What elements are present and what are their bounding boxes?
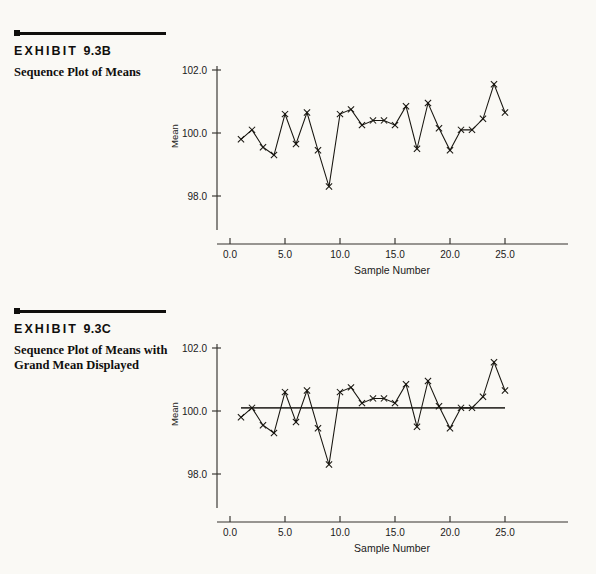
textbook-page: EXHIBIT 9.3B Sequence Plot of Means 102.… (0, 0, 596, 574)
x-ticklabel-0: 0.0 (223, 249, 237, 260)
y-axis-group-b: 102.0 100.0 98.0 Mean (169, 65, 221, 231)
exhibit-title-number: 9.3C (84, 322, 112, 336)
x-axis-group-c: 0.0 5.0 10.0 15.0 20.0 25.0 Sample Numbe… (217, 516, 568, 554)
data-point-marker (436, 125, 442, 131)
data-point-marker (315, 425, 321, 431)
series-markers (238, 81, 508, 190)
data-point-marker (392, 122, 398, 128)
data-point-marker (491, 81, 497, 87)
x-ticklabel-15: 15.0 (385, 249, 405, 260)
x-ticklabel-10: 10.0 (330, 527, 350, 538)
series-polyline (241, 362, 505, 464)
data-point-marker (403, 381, 409, 387)
y-axis-group-c: 102.0 100.0 98.0 Mean (169, 343, 221, 509)
x-axis-group-b: 0.0 5.0 10.0 15.0 20.0 25.0 Sample Numbe… (217, 238, 568, 276)
x-ticklabel-25: 25.0 (495, 527, 515, 538)
data-point-marker (293, 141, 299, 147)
data-point-marker (491, 359, 497, 365)
x-ticklabel-5: 5.0 (278, 527, 292, 538)
y-ticklabel-100: 100.0 (182, 406, 207, 417)
exhibit-title-number: 9.3B (84, 44, 112, 58)
chart-canvas-b: 102.0 100.0 98.0 Mean 0.0 5.0 10.0 15.0 … (160, 52, 580, 282)
data-point-marker (304, 387, 310, 393)
y-ticklabel-102: 102.0 (182, 343, 207, 354)
exhibit-rule (14, 308, 166, 317)
data-point-marker (260, 144, 266, 150)
chart-canvas-c: 102.0 100.0 98.0 Mean 0.0 5.0 10.0 15.0 … (160, 330, 580, 560)
data-point-marker (293, 419, 299, 425)
data-point-marker (238, 136, 244, 142)
data-point-marker (480, 394, 486, 400)
x-axis-title: Sample Number (354, 264, 430, 276)
x-axis-title: Sample Number (354, 542, 430, 554)
series-group-b (238, 81, 508, 190)
x-ticklabel-15: 15.0 (385, 527, 405, 538)
data-point-marker (447, 147, 453, 153)
x-ticklabel-10: 10.0 (330, 249, 350, 260)
y-ticklabel-102: 102.0 (182, 65, 207, 76)
data-point-marker (359, 122, 365, 128)
data-point-marker (359, 400, 365, 406)
series-markers (238, 359, 508, 468)
y-ticklabel-98: 98.0 (188, 191, 208, 202)
x-ticklabel-25: 25.0 (495, 249, 515, 260)
sequence-plot-means-with-grand-mean: 102.0 100.0 98.0 Mean 0.0 5.0 10.0 15.0 … (160, 330, 580, 560)
data-point-marker (348, 106, 354, 112)
exhibit-caption: Sequence Plot of Means (14, 65, 184, 80)
data-point-marker (271, 430, 277, 436)
data-point-marker (249, 127, 255, 133)
exhibit-title-word: EXHIBIT (14, 44, 78, 58)
y-ticklabel-98: 98.0 (188, 469, 208, 480)
horizontal-rule (17, 32, 166, 35)
exhibit-rule (14, 30, 166, 39)
data-point-marker (502, 109, 508, 115)
data-point-marker (480, 116, 486, 122)
series-polyline (241, 84, 505, 186)
x-ticklabel-0: 0.0 (223, 527, 237, 538)
y-ticklabel-100: 100.0 (182, 128, 207, 139)
exhibit-caption: Sequence Plot of Means with Grand Mean D… (14, 343, 184, 372)
series-group-c (238, 359, 508, 468)
y-axis-title: Mean (169, 124, 180, 148)
data-point-marker (271, 152, 277, 158)
x-ticklabel-20: 20.0 (440, 249, 460, 260)
data-point-marker (447, 425, 453, 431)
data-point-marker (315, 147, 321, 153)
sequence-plot-means: 102.0 100.0 98.0 Mean 0.0 5.0 10.0 15.0 … (160, 52, 580, 282)
exhibit-title-word: EXHIBIT (14, 322, 78, 336)
data-point-marker (502, 387, 508, 393)
x-ticklabel-20: 20.0 (440, 527, 460, 538)
data-point-marker (260, 422, 266, 428)
data-point-marker (348, 384, 354, 390)
data-point-marker (392, 400, 398, 406)
y-axis-title: Mean (169, 402, 180, 426)
data-point-marker (238, 414, 244, 420)
data-point-marker (282, 111, 288, 117)
data-point-marker (282, 389, 288, 395)
x-ticklabel-5: 5.0 (278, 249, 292, 260)
horizontal-rule (17, 310, 166, 313)
data-point-marker (304, 109, 310, 115)
data-point-marker (403, 103, 409, 109)
